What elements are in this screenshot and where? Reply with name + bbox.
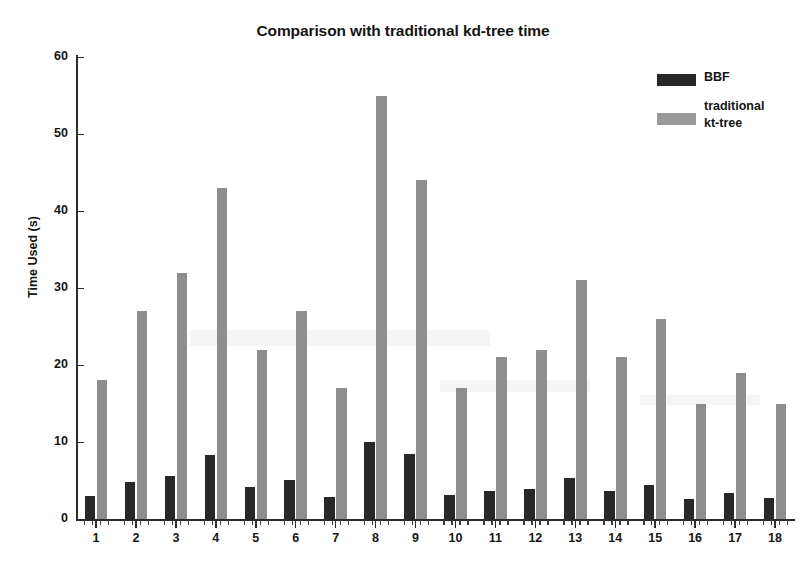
legend-label-traditional-line1: traditional xyxy=(704,99,764,114)
bar-bbf-11 xyxy=(484,491,495,519)
x-minor-tick xyxy=(228,520,229,525)
bar-bbf-6 xyxy=(284,480,295,519)
y-tick-label: 40 xyxy=(24,203,68,217)
bar-traditional-14 xyxy=(616,357,627,519)
x-minor-tick xyxy=(372,520,373,525)
x-major-tick xyxy=(215,520,217,528)
x-minor-tick xyxy=(579,520,580,525)
bar-bbf-8 xyxy=(364,442,375,519)
x-minor-tick xyxy=(539,520,540,525)
x-minor-tick xyxy=(332,520,333,525)
x-minor-tick xyxy=(611,520,612,525)
x-minor-tick xyxy=(428,520,429,525)
x-minor-tick xyxy=(619,520,620,525)
chart-figure: Comparison with traditional kd-tree time… xyxy=(0,0,806,576)
x-minor-tick xyxy=(380,520,381,525)
x-major-tick xyxy=(95,520,97,528)
x-major-tick xyxy=(455,520,457,528)
x-major-tick xyxy=(694,520,696,528)
x-major-tick xyxy=(615,520,617,528)
x-minor-tick xyxy=(547,520,548,525)
y-tick-label: 30 xyxy=(24,280,68,294)
x-minor-tick xyxy=(683,520,684,525)
x-minor-tick xyxy=(292,520,293,525)
bar-traditional-17 xyxy=(736,373,747,519)
bar-bbf-5 xyxy=(245,487,256,519)
x-minor-tick xyxy=(252,520,253,525)
x-minor-tick xyxy=(172,520,173,525)
x-major-tick xyxy=(295,520,297,528)
x-tick-label: 14 xyxy=(595,531,635,545)
x-major-tick xyxy=(375,520,377,528)
x-minor-tick xyxy=(108,520,109,525)
x-minor-tick xyxy=(220,520,221,525)
legend-entry-bbf: BBF xyxy=(657,70,802,92)
x-tick-label: 4 xyxy=(196,531,236,545)
bar-traditional-3 xyxy=(177,273,188,519)
bar-bbf-17 xyxy=(724,493,735,519)
x-minor-tick xyxy=(787,520,788,525)
x-minor-tick xyxy=(244,520,245,525)
x-minor-tick xyxy=(467,520,468,525)
y-tick-label: 60 xyxy=(24,49,68,63)
x-minor-tick xyxy=(348,520,349,525)
x-major-tick xyxy=(575,520,577,528)
x-tick-label: 12 xyxy=(515,531,555,545)
y-axis-title: Time Used (s) xyxy=(26,177,40,337)
x-minor-tick xyxy=(188,520,189,525)
x-minor-tick xyxy=(308,520,309,525)
x-tick-label: 17 xyxy=(715,531,755,545)
bar-traditional-4 xyxy=(217,188,228,519)
x-minor-tick xyxy=(260,520,261,525)
x-minor-tick xyxy=(324,520,325,525)
y-tick-label: 0 xyxy=(24,511,68,525)
x-minor-tick xyxy=(212,520,213,525)
bar-bbf-3 xyxy=(165,476,176,519)
x-minor-tick xyxy=(140,520,141,525)
bar-bbf-2 xyxy=(125,482,136,519)
x-minor-tick xyxy=(92,520,93,525)
x-major-tick xyxy=(415,520,417,528)
x-minor-tick xyxy=(723,520,724,525)
x-major-tick xyxy=(335,520,337,528)
x-minor-tick xyxy=(643,520,644,525)
bar-traditional-1 xyxy=(97,380,108,519)
bar-bbf-10 xyxy=(444,495,455,519)
x-tick-label: 1 xyxy=(76,531,116,545)
bar-traditional-16 xyxy=(696,404,707,520)
bar-bbf-12 xyxy=(524,489,535,519)
y-tick-label: 20 xyxy=(24,357,68,371)
bar-traditional-8 xyxy=(376,96,387,520)
x-minor-tick xyxy=(148,520,149,525)
x-minor-tick xyxy=(587,520,588,525)
bar-bbf-18 xyxy=(764,498,775,519)
x-tick-label: 15 xyxy=(635,531,675,545)
x-minor-tick xyxy=(491,520,492,525)
x-major-tick xyxy=(135,520,137,528)
x-minor-tick xyxy=(180,520,181,525)
x-axis-line xyxy=(76,519,795,521)
bar-bbf-4 xyxy=(205,455,216,519)
chart-title: Comparison with traditional kd-tree time xyxy=(0,22,806,40)
x-minor-tick xyxy=(571,520,572,525)
bar-bbf-13 xyxy=(564,478,575,519)
x-minor-tick xyxy=(404,520,405,525)
x-minor-tick xyxy=(499,520,500,525)
x-minor-tick xyxy=(739,520,740,525)
bar-bbf-1 xyxy=(85,496,96,519)
bar-bbf-7 xyxy=(324,497,335,519)
x-minor-tick xyxy=(420,520,421,525)
x-minor-tick xyxy=(364,520,365,525)
x-major-tick xyxy=(495,520,497,528)
x-tick-label: 18 xyxy=(755,531,795,545)
x-major-tick xyxy=(175,520,177,528)
bar-traditional-7 xyxy=(336,388,347,519)
x-minor-tick xyxy=(707,520,708,525)
y-tick-label: 10 xyxy=(24,434,68,448)
x-minor-tick xyxy=(124,520,125,525)
x-minor-tick xyxy=(412,520,413,525)
x-tick-label: 13 xyxy=(555,531,595,545)
x-minor-tick xyxy=(340,520,341,525)
gray-swatch-icon xyxy=(657,113,696,125)
x-minor-tick xyxy=(779,520,780,525)
